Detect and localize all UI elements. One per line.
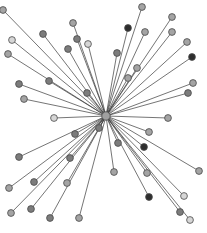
leaf-node[interactable]: [177, 209, 184, 216]
leaf-node[interactable]: [6, 185, 13, 192]
node-layer: [0, 4, 202, 224]
edge-layer: [3, 7, 199, 220]
leaf-node[interactable]: [125, 25, 132, 32]
leaf-node[interactable]: [141, 144, 148, 151]
edge: [54, 116, 106, 118]
leaf-node[interactable]: [70, 20, 77, 27]
edge: [3, 10, 106, 116]
leaf-node[interactable]: [67, 155, 74, 162]
leaf-node[interactable]: [16, 81, 23, 88]
leaf-node[interactable]: [125, 75, 132, 82]
leaf-node[interactable]: [114, 50, 121, 57]
leaf-node[interactable]: [65, 46, 72, 53]
leaf-node[interactable]: [85, 41, 92, 48]
leaf-node[interactable]: [184, 39, 191, 46]
leaf-node[interactable]: [139, 4, 146, 11]
leaf-node[interactable]: [165, 115, 172, 122]
leaf-node[interactable]: [8, 210, 15, 217]
edge: [9, 116, 106, 188]
leaf-node[interactable]: [51, 115, 58, 122]
leaf-node[interactable]: [46, 78, 53, 85]
leaf-node[interactable]: [28, 206, 35, 213]
leaf-node[interactable]: [31, 179, 38, 186]
edge: [106, 116, 184, 196]
leaf-node[interactable]: [142, 29, 149, 36]
edge: [19, 116, 106, 157]
leaf-node[interactable]: [134, 65, 141, 72]
leaf-node[interactable]: [0, 7, 6, 14]
star-network-diagram: [0, 0, 207, 233]
leaf-node[interactable]: [72, 131, 79, 138]
leaf-node[interactable]: [74, 36, 81, 43]
leaf-node[interactable]: [111, 169, 118, 176]
edge: [106, 116, 180, 212]
edge: [106, 116, 168, 118]
leaf-node[interactable]: [9, 37, 16, 44]
edge: [106, 116, 149, 197]
edge: [34, 116, 106, 182]
hub-node[interactable]: [102, 112, 110, 120]
leaf-node[interactable]: [146, 129, 153, 136]
edge: [11, 116, 106, 213]
edge: [31, 116, 106, 209]
leaf-node[interactable]: [144, 170, 151, 177]
leaf-node[interactable]: [84, 90, 91, 97]
leaf-node[interactable]: [21, 96, 28, 103]
leaf-node[interactable]: [16, 154, 23, 161]
leaf-node[interactable]: [115, 140, 122, 147]
edge: [106, 57, 192, 116]
leaf-node[interactable]: [96, 125, 103, 132]
leaf-node[interactable]: [189, 54, 196, 61]
leaf-node[interactable]: [5, 51, 12, 58]
leaf-node[interactable]: [76, 215, 83, 222]
leaf-node[interactable]: [146, 194, 153, 201]
leaf-node[interactable]: [190, 80, 197, 87]
leaf-node[interactable]: [169, 14, 176, 21]
edge: [43, 34, 106, 116]
leaf-node[interactable]: [181, 193, 188, 200]
leaf-node[interactable]: [196, 168, 203, 175]
leaf-node[interactable]: [47, 215, 54, 222]
leaf-node[interactable]: [185, 90, 192, 97]
leaf-node[interactable]: [40, 31, 47, 38]
leaf-node[interactable]: [187, 217, 194, 224]
leaf-node[interactable]: [64, 180, 71, 187]
leaf-node[interactable]: [169, 29, 176, 36]
